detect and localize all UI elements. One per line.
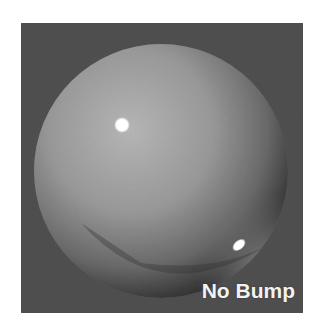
caption-label: No Bump [202,279,295,303]
highlight-main [114,117,130,133]
render-panel: No Bump [21,23,303,313]
sphere-render [21,23,303,313]
